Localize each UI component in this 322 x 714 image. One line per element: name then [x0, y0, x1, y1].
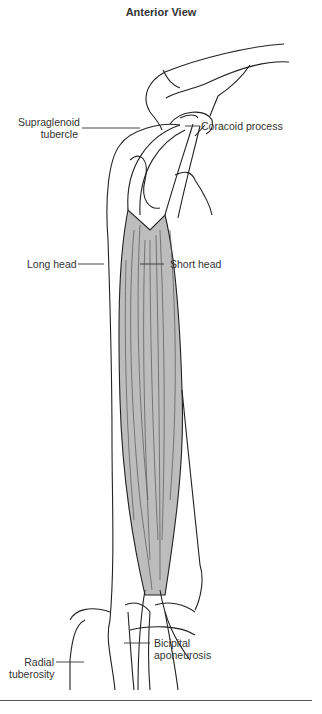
- label-supraglenoid-tubercle: Supraglenoid tubercle: [18, 116, 78, 140]
- bottom-divider: [0, 700, 312, 701]
- label-line-1: Bicipital: [154, 637, 190, 649]
- label-radial-tuberosity: Radial tuberosity: [9, 656, 54, 680]
- label-line-2: aponeurosis: [154, 649, 211, 661]
- label-coracoid-process: Coracoid process: [201, 120, 283, 132]
- biceps-illustration: [0, 0, 322, 714]
- label-short-head: Short head: [170, 258, 221, 270]
- label-line-2: tuberosity: [9, 668, 55, 680]
- label-long-head: Long head: [27, 258, 77, 270]
- label-line-1: Radial: [24, 656, 54, 668]
- label-line-2: tubercle: [41, 128, 78, 140]
- label-line-1: Supraglenoid: [18, 116, 80, 128]
- label-bicipital-aponeurosis: Bicipital aponeurosis: [154, 637, 211, 661]
